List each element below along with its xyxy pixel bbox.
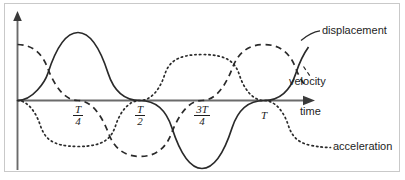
shm-graph-figure: displacement velocity acceleration time …	[0, 0, 405, 180]
x-tick-t-over-4: T 4	[64, 104, 92, 127]
y-axis-arrowhead	[13, 11, 22, 21]
x-tick-t-period: T	[252, 110, 276, 121]
x-axis-label-time: time	[300, 106, 321, 117]
x-tick-three-t-over-4: 3T 4	[187, 104, 217, 127]
fraction-numerator: T	[73, 104, 83, 115]
series-label-acceleration: acceleration	[333, 141, 392, 152]
fraction-numerator: 3T	[194, 104, 210, 115]
displacement-leader-line	[301, 31, 320, 41]
fraction-denominator: 4	[73, 115, 83, 127]
series-label-displacement: displacement	[322, 25, 387, 36]
x-axis-arrowhead	[303, 96, 315, 105]
series-label-velocity: velocity	[289, 76, 326, 87]
fraction-t-4: T 4	[73, 104, 83, 127]
fraction-numerator: T	[135, 104, 145, 115]
fraction-3t-4: 3T 4	[194, 104, 210, 127]
fraction-denominator: 2	[135, 115, 145, 127]
x-tick-t-over-2: T 2	[126, 104, 154, 127]
fraction-denominator: 4	[194, 115, 210, 127]
fraction-t-2: T 2	[135, 104, 145, 127]
